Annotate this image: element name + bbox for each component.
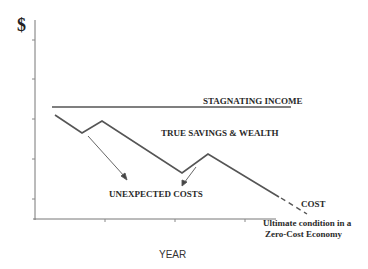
chart: $ STAGNATING INCOME TRUE SAVINGS & WEALT… xyxy=(0,0,368,269)
ultimate-condition-line2: Zero-Cost Economy xyxy=(265,229,343,239)
stagnating-income-label: STAGNATING INCOME xyxy=(203,96,302,106)
unexpected-costs-label: UNEXPECTED COSTS xyxy=(109,189,203,199)
x-axis-label: YEAR xyxy=(159,249,186,260)
ultimate-condition-line1: Ultimate condition in a xyxy=(263,218,352,228)
y-axis-label: $ xyxy=(17,15,26,35)
unexpected-cost-arrows xyxy=(88,136,196,186)
savings-label: TRUE SAVINGS & WEALTH xyxy=(161,128,279,138)
cost-label: COST xyxy=(301,199,326,209)
